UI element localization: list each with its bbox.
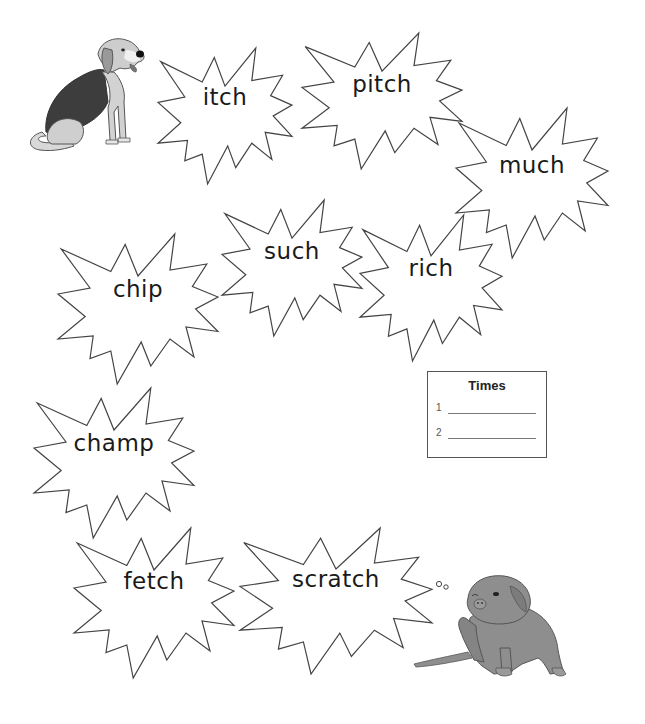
burst-word: such (222, 238, 362, 264)
starburst-icon (158, 48, 292, 184)
scratching-dog-icon (410, 568, 570, 683)
word-burst-champ: champ (34, 388, 194, 538)
starburst-icon (302, 33, 462, 169)
burst-word: scratch (240, 566, 432, 592)
word-burst-scratch: scratch (240, 528, 432, 674)
times-answer-line[interactable] (448, 438, 536, 439)
word-burst-fetch: fetch (74, 528, 234, 678)
starburst-icon (360, 215, 502, 361)
times-row-number: 1 (436, 402, 442, 413)
beagle-icon (22, 32, 147, 154)
burst-word: champ (34, 430, 194, 456)
starburst-icon (34, 388, 194, 538)
burst-word: rich (360, 255, 502, 281)
burst-word: fetch (74, 568, 234, 594)
starburst-icon (74, 528, 234, 678)
burst-word: chip (58, 276, 218, 302)
times-answer-line[interactable] (448, 413, 536, 414)
burst-word: itch (158, 84, 292, 110)
times-row-1[interactable]: 1 (436, 402, 536, 416)
starburst-icon (58, 234, 218, 384)
times-row-2[interactable]: 2 (436, 427, 536, 441)
times-row-number: 2 (436, 427, 442, 438)
beagle-illustration (22, 32, 147, 154)
word-burst-rich: rich (360, 215, 502, 361)
burst-word: pitch (302, 71, 462, 97)
word-burst-pitch: pitch (302, 33, 462, 169)
scratching-dog-illustration (410, 568, 570, 683)
starburst-icon (240, 528, 432, 674)
starburst-icon (222, 200, 362, 336)
word-burst-chip: chip (58, 234, 218, 384)
times-box: Times 1 2 (427, 371, 547, 458)
word-burst-itch: itch (158, 48, 292, 184)
times-title: Times (428, 378, 546, 393)
word-burst-such: such (222, 200, 362, 336)
burst-word: much (456, 152, 608, 178)
